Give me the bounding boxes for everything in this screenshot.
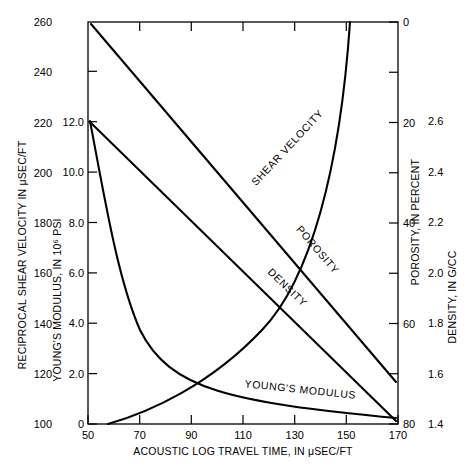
density-tick-label: 1.6: [428, 368, 443, 380]
chart-figure: 50 70 90 110 130 150 170 ACOUSTIC LOG TR…: [0, 0, 470, 470]
x-tick-label: 150: [337, 429, 355, 441]
curve-label-youngs-modulus: YOUNG'S MODULUS: [244, 377, 357, 401]
plot-frame: [88, 22, 398, 424]
curve-density: [90, 122, 396, 421]
rsv-tick-label: 140: [34, 318, 52, 330]
x-tick-labels: 50 70 90 110 130 150 170: [82, 429, 407, 441]
curve-shear-velocity: [108, 22, 350, 424]
rsv-tick-label: 100: [34, 418, 52, 430]
rsv-tick-label: 200: [34, 167, 52, 179]
density-axis-title: DENSITY, IN G/CC: [446, 250, 458, 343]
density-tick-label: 2.4: [428, 166, 443, 178]
x-axis-ticks-top: [140, 22, 347, 31]
porosity-ticks: [389, 22, 398, 424]
rsv-tick-label: 260: [34, 16, 52, 28]
curve-label-shear-velocity: SHEAR VELOCITY: [249, 107, 326, 188]
density-tick-labels: 1.4 1.6 1.8 2.0 2.2 2.4 2.6: [428, 115, 443, 430]
ym-tick-label: 6.0: [69, 267, 84, 279]
ym-tick-label: 12.0: [63, 116, 84, 128]
reciprocal-shear-velocity-axis-title: RECIPROCAL SHEAR VELOCITY IN μSEC/FT: [16, 140, 28, 369]
rsv-tick-label: 180: [34, 217, 52, 229]
curve-porosity: [91, 24, 396, 382]
youngs-modulus-tick-labels: 0 2.0 4.0 6.0 8.0 10.0 12.0: [63, 116, 84, 430]
reciprocal-shear-velocity-tick-labels: 100 120 140 160 180 200 220 240 260: [34, 16, 52, 430]
porosity-tick-label: 80: [403, 418, 415, 430]
x-tick-label: 110: [234, 429, 252, 441]
ym-tick-label: 10.0: [63, 166, 84, 178]
rsv-tick-label: 240: [34, 66, 52, 78]
ym-tick-label: 8.0: [69, 217, 84, 229]
ym-tick-label: 0: [78, 418, 84, 430]
x-tick-label: 170: [389, 429, 407, 441]
density-tick-label: 1.4: [428, 418, 443, 430]
ym-tick-label: 4.0: [69, 317, 84, 329]
rsv-tick-label: 160: [34, 267, 52, 279]
x-axis-title: ACOUSTIC LOG TRAVEL TIME, IN μSEC/FT: [133, 445, 353, 457]
ym-tick-label: 2.0: [69, 368, 84, 380]
x-tick-label: 50: [82, 429, 94, 441]
porosity-tick-label: 20: [403, 117, 415, 129]
x-axis-ticks: [88, 415, 398, 424]
density-tick-label: 2.6: [428, 115, 443, 127]
x-tick-label: 90: [185, 429, 197, 441]
rsv-tick-label: 120: [34, 368, 52, 380]
density-tick-label: 2.2: [428, 216, 443, 228]
porosity-tick-label: 0: [403, 16, 409, 28]
density-tick-label: 2.0: [428, 267, 443, 279]
density-tick-label: 1.8: [428, 317, 443, 329]
x-tick-label: 70: [134, 429, 146, 441]
porosity-axis-title: POROSITY, IN PERCENT: [409, 158, 421, 285]
porosity-tick-label: 60: [403, 318, 415, 330]
youngs-modulus-axis-title: YOUNG'S MODULUS, IN 10⁶ PSI: [51, 218, 63, 381]
x-tick-label: 130: [286, 429, 304, 441]
rsv-tick-label: 220: [34, 117, 52, 129]
chart-svg: 50 70 90 110 130 150 170 ACOUSTIC LOG TR…: [0, 0, 470, 470]
